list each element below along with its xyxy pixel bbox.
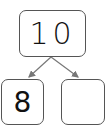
whole-value: 10 bbox=[29, 16, 75, 51]
part-value-left: 8 bbox=[14, 86, 32, 119]
arrow-to-right-part bbox=[51, 57, 78, 77]
part-box-left: 8 bbox=[1, 79, 44, 125]
arrow-to-left-part bbox=[29, 57, 51, 77]
part-box-right[interactable] bbox=[61, 79, 105, 125]
whole-box: 10 bbox=[19, 10, 86, 57]
